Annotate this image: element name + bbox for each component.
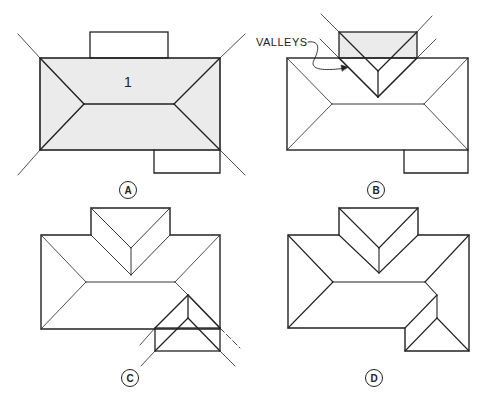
panel-label-d: D [365, 369, 383, 387]
roof-plan-diagram [0, 0, 488, 401]
valleys-annotation: VALLEYS [256, 36, 308, 48]
panel-label-c: C [121, 369, 139, 387]
panel-b-drawing [287, 14, 468, 173]
panel-label-a: A [119, 181, 137, 199]
panel-c-drawing [41, 208, 240, 366]
panel-d-drawing [288, 208, 469, 351]
panel-label-b: B [367, 181, 385, 199]
panel-a-drawing [18, 32, 245, 175]
area-number-label: 1 [124, 74, 132, 90]
